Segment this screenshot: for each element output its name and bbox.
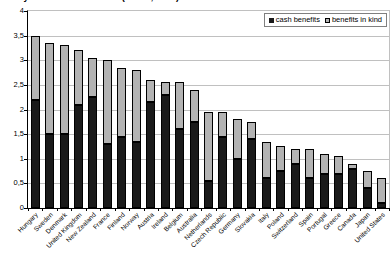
x-axis-tick: [245, 208, 246, 211]
bar-segment-benefits-in-kind: [218, 112, 227, 137]
y-axis-label: 0,5: [0, 179, 24, 186]
bar-switzerland: [291, 149, 300, 208]
x-axis-tick: [201, 208, 202, 211]
x-axis-tick: [187, 208, 188, 211]
plot-area: [27, 10, 390, 209]
bar-segment-benefits-in-kind: [320, 154, 329, 174]
x-axis-tick: [129, 208, 130, 211]
bar-segment-benefits-in-kind: [291, 149, 300, 164]
bar-segment-benefits-in-kind: [276, 146, 285, 171]
bar-united-kingdom: [74, 50, 83, 208]
y-axis-tick: [24, 110, 28, 111]
bar-segment-benefits-in-kind: [305, 149, 314, 179]
bar-segment-cash-benefits: [291, 164, 300, 208]
bar-segment-cash-benefits: [88, 97, 97, 208]
bar-segment-benefits-in-kind: [377, 178, 386, 203]
bar-segment-cash-benefits: [276, 171, 285, 208]
bar-ireland: [161, 82, 170, 208]
bar-austria: [146, 80, 155, 208]
bar-greece: [334, 156, 343, 208]
bar-japan: [363, 171, 372, 208]
legend-label-benefits-in-kind: benefits in kind: [332, 16, 382, 24]
bar-united-states: [377, 178, 386, 208]
stacked-bar-chart: Family benefits in % of GDP (OECD, 2007)…: [0, 0, 392, 261]
bar-segment-benefits-in-kind: [334, 156, 343, 173]
x-axis-tick: [273, 208, 274, 211]
bar-norway: [132, 70, 141, 208]
bar-segment-cash-benefits: [74, 105, 83, 208]
bar-segment-cash-benefits: [60, 134, 69, 208]
bar-segment-cash-benefits: [117, 137, 126, 208]
x-axis-tick: [346, 208, 347, 211]
bar-segment-cash-benefits: [363, 188, 372, 208]
bar-segment-cash-benefits: [103, 144, 112, 208]
x-axis-tick: [317, 208, 318, 211]
bar-segment-cash-benefits: [218, 137, 227, 208]
bar-segment-cash-benefits: [262, 178, 271, 208]
x-axis-tick: [115, 208, 116, 211]
bar-segment-benefits-in-kind: [204, 112, 213, 181]
bar-segment-cash-benefits: [31, 100, 40, 208]
y-axis-tick: [24, 36, 28, 37]
bar-portugal: [320, 154, 329, 208]
chart-legend: cash benefits benefits in kind: [264, 13, 387, 27]
bar-france: [103, 60, 112, 208]
bar-segment-benefits-in-kind: [74, 50, 83, 104]
cash-benefits-swatch-icon: [269, 18, 274, 23]
x-axis-tick: [375, 208, 376, 211]
benefits-in-kind-swatch-icon: [325, 18, 330, 23]
bar-czech-republic: [218, 112, 227, 208]
x-axis-tick: [42, 208, 43, 211]
bar-segment-cash-benefits: [190, 122, 199, 208]
legend-item-benefits-in-kind: benefits in kind: [325, 16, 382, 24]
bar-segment-benefits-in-kind: [262, 142, 271, 179]
clipped-chart-title: Family benefits in % of GDP (OECD, 2007): [0, 0, 392, 4]
bar-segment-benefits-in-kind: [247, 122, 256, 139]
legend-label-cash-benefits: cash benefits: [276, 16, 320, 24]
bar-segment-benefits-in-kind: [117, 68, 126, 137]
bar-segment-benefits-in-kind: [363, 171, 372, 188]
x-axis-tick: [360, 208, 361, 211]
bar-segment-benefits-in-kind: [146, 80, 155, 102]
bar-segment-benefits-in-kind: [348, 164, 357, 169]
y-axis-tick: [24, 85, 28, 86]
x-axis-tick: [158, 208, 159, 211]
bar-segment-cash-benefits: [334, 174, 343, 208]
bar-segment-benefits-in-kind: [60, 45, 69, 134]
legend-item-cash-benefits: cash benefits: [269, 16, 320, 24]
bar-slovakia: [247, 122, 256, 208]
y-axis-label: 2,5: [0, 81, 24, 88]
bar-segment-cash-benefits: [377, 203, 386, 208]
bar-finland: [117, 68, 126, 208]
y-axis-label: 1,5: [0, 130, 24, 137]
bar-canada: [348, 164, 357, 208]
y-axis-label: 1: [0, 155, 24, 162]
bar-segment-cash-benefits: [204, 181, 213, 208]
y-axis-tick: [24, 60, 28, 61]
x-axis-tick: [288, 208, 289, 211]
bar-australia: [190, 90, 199, 208]
bar-poland: [276, 146, 285, 208]
bar-segment-cash-benefits: [320, 174, 329, 208]
x-axis-tick: [216, 208, 217, 211]
x-axis-tick: [389, 208, 390, 211]
bar-segment-cash-benefits: [247, 139, 256, 208]
x-axis-tick: [172, 208, 173, 211]
bar-segment-cash-benefits: [132, 142, 141, 208]
bar-segment-benefits-in-kind: [132, 70, 141, 141]
bar-segment-cash-benefits: [305, 178, 314, 208]
y-axis-label: 2: [0, 106, 24, 113]
x-axis-tick: [230, 208, 231, 211]
bar-belgium: [175, 82, 184, 208]
bar-segment-benefits-in-kind: [103, 60, 112, 144]
bar-italy: [262, 142, 271, 208]
x-axis-tick: [259, 208, 260, 211]
y-axis-label: 0: [0, 204, 24, 211]
gridline: [28, 36, 389, 37]
bar-hungary: [31, 36, 40, 208]
bar-segment-cash-benefits: [175, 129, 184, 208]
bar-segment-benefits-in-kind: [88, 58, 97, 97]
x-axis-tick: [302, 208, 303, 211]
y-axis-tick: [24, 11, 28, 12]
y-axis-label: 3: [0, 56, 24, 63]
